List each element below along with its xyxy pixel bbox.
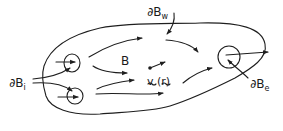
flow-arrow-5 xyxy=(166,40,198,52)
diagram-canvas xyxy=(0,0,283,131)
velocity-vector xyxy=(150,62,165,68)
domain-boundary xyxy=(43,23,266,114)
exit-arrow xyxy=(226,52,268,55)
inlet-circle-upper xyxy=(64,54,80,72)
inlet-boundary-label: ∂Bi xyxy=(9,74,26,92)
inlet-leader-lower xyxy=(33,83,72,91)
inlet-circle-lower xyxy=(67,88,83,104)
flow-arrow-1 xyxy=(89,38,142,57)
flow-arrow-6 xyxy=(183,68,212,83)
flow-arrow-4 xyxy=(96,93,163,94)
flow-arrow-3 xyxy=(97,80,134,89)
domain-label: B xyxy=(121,52,129,68)
wall-boundary-label: ∂Bw xyxy=(147,3,168,21)
exit-circle xyxy=(218,46,240,68)
velocity-field-label: v (r) xyxy=(147,72,170,88)
exit-boundary-label: ∂Be xyxy=(250,75,269,93)
flow-domain-diagram: ∂Bi ∂Bw ∂Be B v (r) xyxy=(0,0,283,131)
inlet-leader-upper xyxy=(33,68,70,79)
